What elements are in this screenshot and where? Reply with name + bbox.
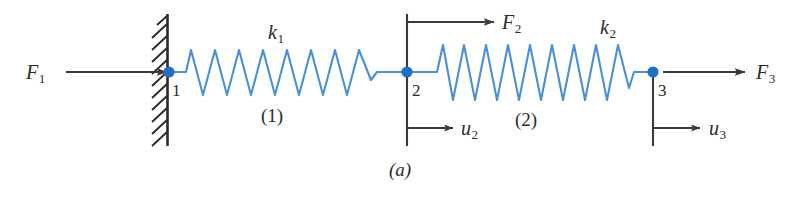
figure-caption: (a) bbox=[389, 160, 411, 179]
node-3-label: 3 bbox=[658, 82, 667, 99]
wall-hatching-icon bbox=[152, 16, 167, 146]
force-3-label: F3 bbox=[756, 62, 775, 85]
node-2-dot bbox=[401, 66, 412, 77]
element-1-label: (1) bbox=[261, 106, 283, 125]
element-2-label: (2) bbox=[515, 110, 537, 129]
node-2-label: 2 bbox=[412, 82, 421, 99]
force-1-label: F1 bbox=[26, 62, 45, 85]
spring-assemblage-figure: F1 1 k1 (1) 2 F2 k2 (2) u2 3 F3 u3 (a) bbox=[0, 0, 802, 198]
displacement-2-label: u2 bbox=[461, 118, 478, 141]
node-1-label: 1 bbox=[172, 82, 181, 99]
node-1-dot bbox=[163, 66, 174, 77]
element-1-spring bbox=[169, 50, 406, 95]
element-2-spring bbox=[407, 45, 652, 100]
fixed-wall-support bbox=[152, 14, 168, 146]
element-2-stiffness-label: k2 bbox=[600, 17, 616, 40]
displacement-3-label: u3 bbox=[709, 118, 726, 141]
force-2-label: F2 bbox=[502, 12, 521, 35]
element-1-stiffness-label: k1 bbox=[268, 22, 284, 45]
node-3-dot bbox=[647, 66, 658, 77]
